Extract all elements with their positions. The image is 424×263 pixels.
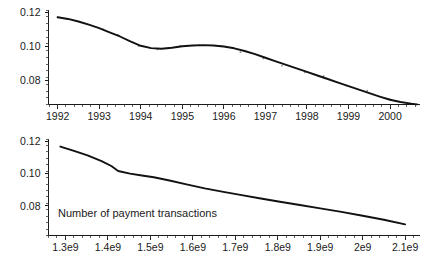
- x-tick-label: 2.1e9: [392, 241, 418, 253]
- y-tick-label: 0.08: [20, 200, 41, 212]
- x-tick-label: 1.3e9: [52, 241, 78, 253]
- y-tick-label: 0.10: [20, 40, 41, 52]
- y-tick-label: 0.10: [20, 167, 41, 179]
- x-tick-label: 1997: [254, 110, 278, 122]
- y-tick-label: 0.08: [20, 74, 41, 86]
- x-tick-label: 1.5e9: [137, 241, 163, 253]
- top-y-tick-labels: 0.120.100.08: [20, 6, 41, 86]
- chart-annotation-label: Number of payment transactions: [58, 207, 217, 219]
- x-tick-label: 1.4e9: [95, 241, 121, 253]
- top-y-tick-marks: [45, 10, 49, 105]
- x-tick-label: 1993: [88, 110, 112, 122]
- x-tick-label: 1.7e9: [222, 241, 248, 253]
- bottom-chart-axes: [49, 139, 421, 236]
- x-tick-label: 1995: [171, 110, 195, 122]
- y-tick-label: 0.12: [20, 6, 41, 18]
- top-chart-svg: 0.120.100.08 199219931994199519961997199…: [0, 0, 424, 131]
- data-point-marker: [240, 51, 242, 53]
- x-tick-label: 1999: [337, 110, 361, 122]
- bottom-y-tick-labels: 0.120.100.08: [20, 135, 41, 211]
- figure-container: 0.120.100.08 199219931994199519961997199…: [0, 0, 424, 263]
- x-tick-label: 1.9e9: [307, 241, 333, 253]
- y-tick-label: 0.12: [20, 135, 41, 147]
- x-tick-label: 1992: [46, 110, 70, 122]
- bottom-x-tick-labels: 1.3e91.4e91.5e91.6e91.7e91.8e91.9e92e92.…: [52, 241, 418, 253]
- top-x-tick-marks: [49, 105, 415, 109]
- x-tick-label: 2e9: [354, 241, 372, 253]
- data-point-marker: [281, 65, 283, 67]
- x-tick-label: 2000: [378, 110, 402, 122]
- top-x-tick-labels: 199219931994199519961997199819992000: [46, 110, 402, 122]
- bottom-y-tick-marks: [45, 139, 49, 236]
- bottom-chart-svg: 0.120.100.08 1.3e91.4e91.5e91.6e91.7e91.…: [0, 131, 424, 263]
- bottom-x-tick-marks: [49, 236, 414, 240]
- x-tick-label: 1994: [129, 110, 153, 122]
- x-tick-label: 1.8e9: [265, 241, 291, 253]
- x-tick-label: 1996: [212, 110, 236, 122]
- x-tick-label: 1998: [295, 110, 319, 122]
- x-tick-label: 1.6e9: [180, 241, 206, 253]
- chart-panel-top: 0.120.100.08 199219931994199519961997199…: [0, 0, 424, 131]
- top-data-curve: [58, 17, 417, 104]
- top-scatter-points: [57, 16, 412, 104]
- chart-panel-bottom: 0.120.100.08 1.3e91.4e91.5e91.6e91.7e91.…: [0, 131, 424, 263]
